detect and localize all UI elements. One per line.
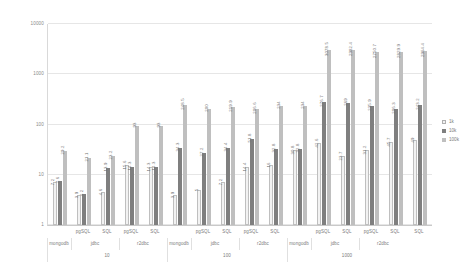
axis-separator — [191, 238, 192, 250]
bar-10k-jdbc-SQL-10: 13.9 — [106, 168, 110, 225]
axis-separator — [47, 238, 48, 250]
axis-label-db: SQL — [407, 229, 431, 234]
bar-value-label: 219.9 — [228, 101, 233, 112]
bar-value-label: 13.9 — [103, 162, 108, 171]
bar-value-label: 276.7 — [319, 96, 324, 107]
bar-10k-r2dbc-SQL-100: 32.8 — [274, 149, 278, 225]
axis-label-db: SQL — [215, 229, 239, 234]
bar-value-label: 14.4 — [242, 162, 247, 171]
bar-100k-r2dbc-pgSQL-1000: 2750.7 — [375, 52, 379, 225]
bar-1k-mongodb-1000: 30.8 — [293, 150, 297, 225]
bar-value-label: 234 — [300, 101, 305, 108]
bar-value-label: 93 — [132, 123, 137, 128]
bar-value-label: 2982.4 — [348, 43, 353, 57]
axis-label-driver: r2dbc — [359, 241, 407, 246]
axis-label-driver: jdbc — [191, 241, 239, 246]
axis-label-db: SQL — [95, 229, 119, 234]
bar-100k-mongodb-1000: 234 — [303, 106, 307, 225]
bar-1k-r2dbc-SQL-100: 16 — [269, 165, 273, 226]
axis-label-driver: jdbc — [311, 241, 359, 246]
bar-value-label: 7.2 — [218, 179, 223, 185]
bar-value-label: 29.2 — [60, 146, 65, 155]
bar-value-label: 2964.4 — [420, 43, 425, 57]
y-axis-tick-label: 10 — [39, 171, 44, 176]
bar-value-label: 49 — [410, 138, 415, 143]
axis-label-db: SQL — [263, 229, 287, 234]
bar-value-label: 31.2 — [362, 146, 367, 155]
bar-value-label: 2829.9 — [396, 44, 401, 58]
bar-100k-jdbc-SQL-10: 23.2 — [111, 156, 115, 225]
bar-value-label: 14.3 — [127, 162, 132, 171]
axis-separator — [287, 238, 288, 250]
bar-10k-r2dbc-pgSQL-1000: 235.9 — [370, 106, 374, 225]
bar-value-label: 23.2 — [108, 151, 113, 160]
bar-10k-r2dbc-SQL-10: 14.3 — [154, 167, 158, 225]
category-row-driver: mongodbjdbcr2dbcmongodbjdbcr2dbcmongodbj… — [47, 238, 432, 250]
bar-10k-jdbc-pgSQL-100: 27.2 — [202, 153, 206, 225]
axis-label-group: 100 — [167, 253, 287, 258]
y-axis-tick-label: 10000 — [30, 21, 44, 26]
category-row-group: 101001000 — [47, 250, 432, 262]
chart-container: 110100100010000 7.27.629.23.94.221.14.61… — [0, 0, 476, 270]
bar-10k-mongodb-10: 7.6 — [58, 181, 62, 225]
bar-10k-r2dbc-SQL2-1000: 243.2 — [418, 105, 422, 225]
bar-100k-r2dbc-pgSQL-100: 206.6 — [255, 109, 259, 225]
bar-100k-r2dbc-SQL-10: 93 — [159, 126, 163, 225]
axis-label-db: pgSQL — [359, 229, 383, 234]
bars-layer: 7.27.629.23.94.221.14.613.923.215.614.39… — [48, 24, 432, 225]
bar-value-label: 93 — [156, 123, 161, 128]
axis-separator — [167, 250, 168, 262]
bar-1k-r2dbc-pgSQL-1000: 31.2 — [365, 150, 369, 225]
bar-10k-r2dbc-pgSQL-100: 51.8 — [250, 139, 254, 225]
legend-item-1k[interactable]: 1k — [442, 117, 474, 126]
legend-label: 10k — [449, 128, 456, 133]
axis-label-driver: jdbc — [71, 241, 119, 246]
bar-10k-jdbc-pgSQL-1000: 276.7 — [322, 102, 326, 225]
bar-value-label: 200 — [204, 105, 209, 112]
bar-value-label: 206.6 — [252, 102, 257, 113]
axis-separator — [47, 250, 48, 262]
y-axis-tick-label: 100 — [36, 121, 44, 126]
bar-value-label: 3.9 — [170, 192, 175, 198]
legend-item-10k[interactable]: 10k — [442, 126, 474, 135]
bar-10k-r2dbc-pgSQL-10: 14.3 — [130, 167, 134, 225]
axis-label-db: SQL — [143, 229, 167, 234]
bar-value-label: 206.3 — [391, 102, 396, 113]
bar-value-label: 34.4 — [223, 142, 228, 151]
bar-value-label: 235.9 — [367, 99, 372, 110]
axis-separator — [359, 238, 360, 250]
axis-separator — [119, 238, 120, 250]
legend-label: 100k — [449, 137, 459, 142]
bar-value-label: 32.8 — [295, 143, 300, 152]
axis-label-driver: r2dbc — [119, 241, 167, 246]
bar-1k-r2dbc-pgSQL-100: 14.4 — [245, 167, 249, 225]
bar-10k-mongodb-1000: 32.8 — [298, 149, 302, 225]
bar-100k-r2dbc-SQL2-1000: 2964.4 — [423, 51, 427, 225]
bar-1k-jdbc-pgSQL-1000: 42.6 — [317, 143, 321, 225]
bar-100k-mongodb-10: 29.2 — [63, 151, 67, 225]
bar-value-label: 4.6 — [98, 189, 103, 195]
bar-value-label: 7.6 — [55, 177, 60, 183]
bar-1k-jdbc-SQL-1000: 23.7 — [341, 156, 345, 225]
bar-value-label: 23.7 — [338, 152, 343, 161]
axis-label-db: pgSQL — [239, 229, 263, 234]
bar-value-label: 14.3 — [151, 162, 156, 171]
axis-label-db: pgSQL — [191, 229, 215, 234]
axis-label-db: SQL — [335, 229, 359, 234]
bar-100k-mongodb-100: 248.5 — [183, 105, 187, 225]
axis-label-driver: mongodb — [167, 241, 191, 246]
plot-area: 110100100010000 7.27.629.23.94.221.14.61… — [47, 24, 432, 226]
bar-100k-jdbc-pgSQL-10: 21.1 — [87, 158, 91, 225]
axis-label-db: pgSQL — [311, 229, 335, 234]
bar-1k-jdbc-SQL-10: 4.6 — [101, 192, 105, 225]
y-axis-tick-label: 1 — [41, 222, 44, 227]
axis-label-db: pgSQL — [119, 229, 143, 234]
bar-value-label: 51.8 — [247, 133, 252, 142]
bar-100k-jdbc-SQL-100: 219.9 — [231, 107, 235, 225]
axis-label-db: SQL — [383, 229, 407, 234]
bar-value-label: 16 — [266, 162, 271, 167]
bar-value-label: 269 — [343, 98, 348, 105]
legend-item-100k[interactable]: 100k — [442, 135, 474, 144]
legend-label: 1k — [449, 119, 454, 124]
bar-1k-mongodb-100: 3.9 — [173, 195, 177, 225]
